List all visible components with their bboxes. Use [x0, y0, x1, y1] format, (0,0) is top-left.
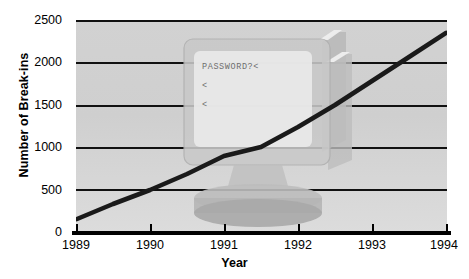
x-tick-label: 1993 — [344, 238, 400, 252]
y-tick-label: 1000 — [16, 141, 62, 154]
y-tick-label: 2500 — [16, 14, 62, 27]
x-tick-label: 1991 — [196, 238, 252, 252]
x-tick-mark — [224, 224, 226, 232]
x-tick-label: 1992 — [270, 238, 326, 252]
plot-area: PASSWORD?< < < — [76, 20, 447, 232]
break-ins-line-chart: Number of Break-ins 2500 2000 1500 1000 … — [0, 0, 469, 279]
x-tick-mark — [298, 224, 300, 232]
y-tick-label: 1500 — [16, 99, 62, 112]
y-tick-label: 500 — [16, 184, 62, 197]
y-tick-label: 2000 — [16, 56, 62, 69]
x-tick-mark — [446, 224, 448, 232]
x-axis-line — [72, 231, 451, 235]
x-tick-label: 1989 — [48, 238, 104, 252]
x-axis-title: Year — [0, 256, 469, 270]
x-tick-mark — [372, 224, 374, 232]
x-tick-label: 1994 — [416, 238, 469, 252]
x-tick-mark — [76, 224, 78, 232]
data-series-line — [76, 20, 447, 232]
x-tick-label: 1990 — [122, 238, 178, 252]
x-tick-mark — [150, 224, 152, 232]
y-tick-label: 0 — [16, 226, 62, 239]
